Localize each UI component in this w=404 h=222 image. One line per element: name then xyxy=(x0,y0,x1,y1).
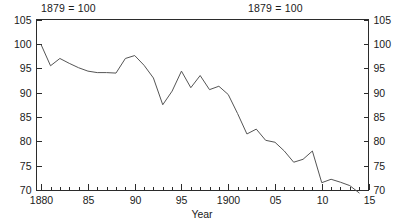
y-tick-label-right: 105 xyxy=(374,14,392,26)
y-tick-label-left: 85 xyxy=(20,111,32,123)
chart-figure: 1879 = 100 1879 = 100 707580859095100105… xyxy=(0,0,404,222)
axes-frame xyxy=(37,20,369,191)
y-tick-label-right: 90 xyxy=(374,87,386,99)
x-tick-label: 90 xyxy=(130,194,142,206)
x-tick-label: 1900 xyxy=(217,194,241,206)
y-tick-label-left: 90 xyxy=(20,87,32,99)
x-axis-labels: 18808590951900051015 xyxy=(30,194,376,206)
index-series-line xyxy=(41,45,359,193)
y-tick-label-left: 75 xyxy=(20,160,32,172)
y-tick-label-right: 75 xyxy=(374,160,386,172)
x-tick-label: 1880 xyxy=(30,194,54,206)
y-axis-right-ticks xyxy=(364,21,369,191)
y-axis-left-labels: 707580859095100105 xyxy=(14,14,32,196)
y-tick-label-left: 80 xyxy=(20,135,32,147)
y-tick-label-left: 95 xyxy=(20,62,32,74)
x-tick-label: 05 xyxy=(270,194,282,206)
plot-frame xyxy=(37,20,369,191)
x-tick-label: 85 xyxy=(83,194,95,206)
y-tick-label-right: 95 xyxy=(374,62,386,74)
y-axis-right-labels: 707580859095100105 xyxy=(374,14,392,196)
y-tick-label-left: 105 xyxy=(14,14,32,26)
y-tick-label-right: 80 xyxy=(374,135,386,147)
x-tick-label: 10 xyxy=(317,194,329,206)
y-tick-label-left: 100 xyxy=(14,38,32,50)
y-tick-label-right: 100 xyxy=(374,38,392,50)
x-tick-label: 95 xyxy=(176,194,188,206)
x-axis-major-ticks xyxy=(42,184,370,190)
x-tick-label: 15 xyxy=(364,194,376,206)
y-tick-label-right: 85 xyxy=(374,111,386,123)
line-chart-plot: 707580859095100105 707580859095100105 18… xyxy=(0,0,404,222)
x-axis-title: Year xyxy=(191,208,213,220)
y-axis-left-ticks xyxy=(37,21,42,191)
